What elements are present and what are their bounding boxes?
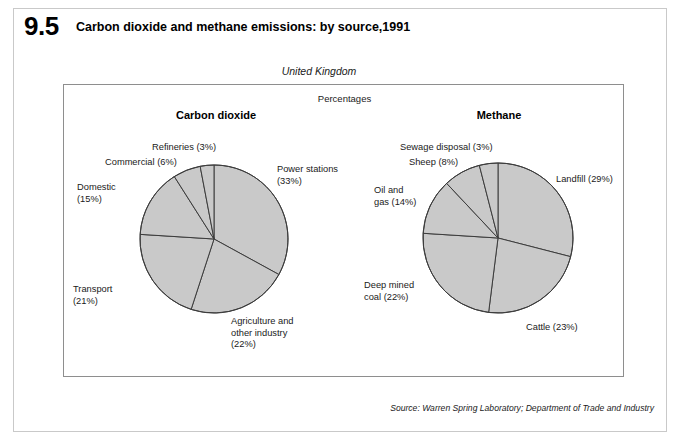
slice-label-landfill: Landfill (29%) (556, 174, 613, 186)
slice-label-cattle: Cattle (23%) (526, 322, 578, 334)
slice-label-transport: Transport (21%) (73, 284, 112, 307)
pie-chart-methane (421, 161, 575, 315)
figure-frame: 9.5 Carbon dioxide and methane emissions… (13, 8, 667, 432)
slice-label-sheep: Sheep (8%) (409, 157, 458, 169)
slice-label-domestic: Domestic (15%) (77, 182, 116, 205)
pie-chart-carbon-dioxide (138, 163, 290, 315)
slice-label-agriculture: Agriculture and other industry (22%) (231, 316, 294, 351)
region-label: United Kingdom (14, 65, 624, 77)
chart-container: Percentages Carbon dioxide Methane (63, 84, 624, 377)
figure-header: 9.5 Carbon dioxide and methane emissions… (14, 9, 668, 49)
slice-label-sewage-disposal: Sewage disposal (3%) (400, 142, 493, 154)
slice-label-deep-mined-coal: Deep mined coal (22%) (364, 280, 414, 303)
slice-label-power-stations: Power stations (33%) (277, 164, 338, 187)
figure-title: Carbon dioxide and methane emissions: by… (76, 19, 410, 35)
slice-label-oil-and-gas: Oil and gas (14%) (374, 185, 416, 208)
units-label: Percentages (64, 93, 625, 104)
panel-title-methane: Methane (399, 109, 599, 121)
slice-label-commercial: Commercial (6%) (105, 157, 177, 169)
source-note: Source: Warren Spring Laboratory; Depart… (390, 403, 654, 413)
slice-label-refineries: Refineries (3%) (152, 142, 216, 154)
pie-slice-deep-mined-coal (423, 233, 498, 312)
panel-title-carbon-dioxide: Carbon dioxide (116, 109, 316, 121)
figure-number: 9.5 (24, 11, 59, 41)
